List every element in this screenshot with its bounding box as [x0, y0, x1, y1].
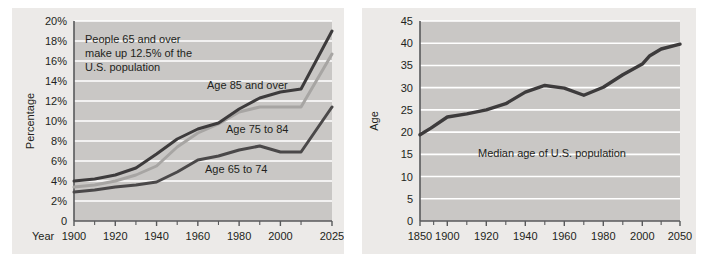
left-y-axis-title: Percentage	[24, 93, 36, 149]
right-y-tick-label: 40	[401, 37, 413, 49]
figure-container: 02%4%6%8%10%12%14%16%18%20%Percentage190…	[0, 0, 708, 262]
right-y-axis-title: Age	[368, 111, 380, 131]
left-y-tick-label: 12%	[45, 95, 67, 107]
left-x-tick-label: 1940	[144, 230, 168, 242]
left-x-tick-label: 1900	[62, 230, 86, 242]
left-y-tick-label: 6%	[51, 155, 67, 167]
left-y-tick-label: 18%	[45, 35, 67, 47]
right-y-tick-label: 5	[407, 193, 413, 205]
left-x-tick-label: 1960	[186, 230, 210, 242]
left-y-tick-label: 10%	[45, 115, 67, 127]
right-line-chart: 051015202530354045Age1850190019201940196…	[362, 8, 696, 254]
left-y-tick-label: 2%	[51, 195, 67, 207]
left-annotation-line: U.S. population	[85, 61, 160, 73]
right-x-tick-label: 1960	[552, 230, 576, 242]
right-x-tick-label: 2050	[668, 230, 692, 242]
left-x-axis-title: Year	[32, 230, 55, 242]
right-x-tick-label: 1900	[435, 230, 459, 242]
right-plot-area	[420, 21, 680, 221]
right-x-tick-label: 1940	[513, 230, 537, 242]
right-y-tick-label: 45	[401, 15, 413, 27]
left-chart-panel: 02%4%6%8%10%12%14%16%18%20%Percentage190…	[12, 8, 344, 254]
right-y-tick-label: 15	[401, 148, 413, 160]
left-y-tick-label: 16%	[45, 55, 67, 67]
left-y-tick-label: 14%	[45, 75, 67, 87]
right-x-tick-label: 2000	[630, 230, 654, 242]
right-y-tick-label: 20	[401, 126, 413, 138]
right-annotation: Median age of U.S. population	[478, 147, 626, 159]
right-x-tick-label: 1920	[474, 230, 498, 242]
left-x-tick-label: 2000	[268, 230, 292, 242]
left-x-tick-label: 1920	[103, 230, 127, 242]
right-chart-panel: 051015202530354045Age1850190019201940196…	[362, 8, 696, 254]
left-annotation-line: People 65 and over	[85, 33, 181, 45]
right-y-tick-label: 30	[401, 82, 413, 94]
right-x-tick-label: 1850	[408, 230, 432, 242]
left-series-label-75-to-84: Age 75 to 84	[226, 123, 288, 135]
left-x-tick-label: 1980	[227, 230, 251, 242]
left-y-tick-label: 20%	[45, 15, 67, 27]
right-y-tick-label: 35	[401, 59, 413, 71]
left-line-chart: 02%4%6%8%10%12%14%16%18%20%Percentage190…	[12, 8, 344, 254]
right-y-tick-label: 10	[401, 171, 413, 183]
right-y-tick-label: 0	[407, 215, 413, 227]
left-y-tick-label: 0	[61, 215, 67, 227]
left-series-label-65-to-74: Age 65 to 74	[205, 163, 267, 175]
left-annotation-line: make up 12.5% of the	[85, 47, 192, 59]
left-series-label-85-and-over: Age 85 and over	[207, 79, 288, 91]
left-x-tick-label: 2025	[320, 230, 344, 242]
right-y-tick-label: 25	[401, 104, 413, 116]
left-y-tick-label: 4%	[51, 175, 67, 187]
right-x-tick-label: 1980	[591, 230, 615, 242]
left-y-tick-label: 8%	[51, 135, 67, 147]
